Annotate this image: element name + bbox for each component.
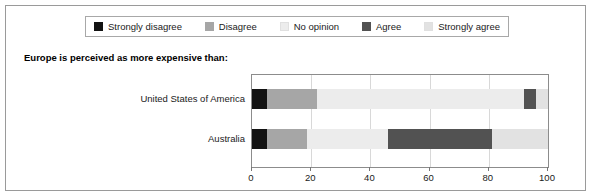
bar-segment[interactable]	[536, 89, 548, 109]
axis-tick-label: 0	[248, 172, 253, 183]
category-label: Australia	[208, 133, 245, 144]
legend-item-label: Strongly disagree	[108, 22, 182, 32]
category-axis-labels: United States of AmericaAustralia	[66, 74, 245, 166]
bar-segment[interactable]	[492, 129, 548, 149]
legend-item-label: Agree	[376, 22, 401, 32]
axis-tick-label: 100	[539, 172, 555, 183]
bar-segment[interactable]	[388, 129, 492, 149]
legend-item-label: Strongly agree	[438, 22, 500, 32]
bar-segment[interactable]	[252, 129, 267, 149]
legend-item[interactable]: Agree	[362, 22, 401, 32]
stacked-bar[interactable]	[252, 129, 548, 149]
axis-tick-mark	[429, 167, 430, 171]
legend-item[interactable]: Disagree	[205, 22, 257, 32]
legend-swatch-icon	[94, 22, 103, 31]
value-axis: 020406080100	[251, 167, 549, 187]
axis-tick-mark	[547, 167, 548, 171]
axis-tick-label: 60	[423, 172, 434, 183]
plot-area	[251, 74, 549, 168]
axis-tick-label: 80	[483, 172, 494, 183]
legend-item-label: Disagree	[219, 22, 257, 32]
legend-swatch-icon	[362, 22, 371, 31]
chart-legend: Strongly disagreeDisagreeNo opinionAgree…	[85, 16, 509, 37]
legend-swatch-icon	[280, 22, 289, 31]
bar-segment[interactable]	[524, 89, 536, 109]
axis-tick-mark	[251, 167, 252, 171]
chart-title: Europe is perceived as more expensive th…	[24, 52, 228, 63]
axis-tick-label: 20	[305, 172, 316, 183]
stacked-bar[interactable]	[252, 89, 548, 109]
bar-segment[interactable]	[317, 89, 524, 109]
legend-item[interactable]: Strongly disagree	[94, 22, 182, 32]
axis-tick-label: 40	[364, 172, 375, 183]
axis-tick-mark	[488, 167, 489, 171]
legend-swatch-icon	[205, 22, 214, 31]
legend-item-label: No opinion	[294, 22, 339, 32]
legend-swatch-icon	[424, 22, 433, 31]
bar-segment[interactable]	[252, 89, 267, 109]
legend-item[interactable]: Strongly agree	[424, 22, 500, 32]
bar-segment[interactable]	[267, 89, 317, 109]
axis-tick-mark	[369, 167, 370, 171]
legend-item[interactable]: No opinion	[280, 22, 339, 32]
bar-segment[interactable]	[267, 129, 307, 149]
axis-tick-mark	[310, 167, 311, 171]
bar-segment[interactable]	[307, 129, 388, 149]
chart-figure: Strongly disagreeDisagreeNo opinionAgree…	[5, 5, 586, 191]
category-label: United States of America	[140, 93, 245, 104]
